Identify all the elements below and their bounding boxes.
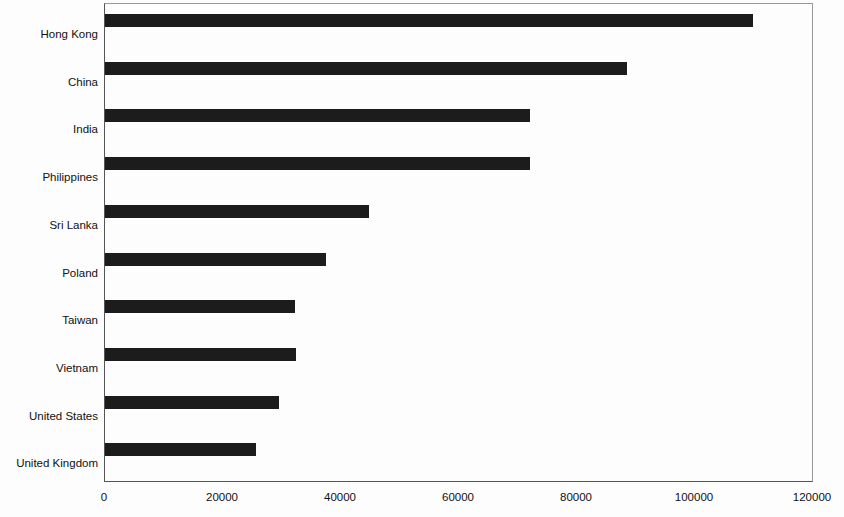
category-label: India	[0, 123, 98, 135]
x-tick-label: 60000	[442, 491, 474, 504]
x-tick-label: 0	[101, 491, 107, 504]
bar-row	[105, 293, 812, 341]
category-axis-labels: Hong KongChinaIndiaPhilippinesSri LankaP…	[0, 3, 98, 482]
bar	[105, 253, 326, 266]
category-label: Taiwan	[0, 314, 98, 326]
bar	[105, 109, 530, 122]
x-tick-label: 120000	[793, 491, 831, 504]
bar	[105, 205, 369, 218]
category-label: Philippines	[0, 171, 98, 183]
bar-row	[105, 102, 812, 150]
bar	[105, 157, 530, 170]
bar-row	[105, 246, 812, 294]
category-label: United States	[0, 410, 98, 422]
x-tick-label: 40000	[324, 491, 356, 504]
bar-row	[105, 150, 812, 198]
x-tick-label: 80000	[560, 491, 592, 504]
bar-row	[105, 55, 812, 103]
category-label: Poland	[0, 267, 98, 279]
category-label: Sri Lanka	[0, 219, 98, 231]
bar-row	[105, 341, 812, 389]
bar	[105, 14, 753, 27]
bar-chart: Hong KongChinaIndiaPhilippinesSri LankaP…	[0, 0, 844, 517]
bar	[105, 348, 296, 361]
category-label: Vietnam	[0, 362, 98, 374]
bar	[105, 396, 279, 409]
bar	[105, 300, 295, 313]
category-label: United Kingdom	[0, 457, 98, 469]
x-tick-label: 20000	[206, 491, 238, 504]
bar	[105, 62, 627, 75]
category-label: China	[0, 76, 98, 88]
x-tick-label: 100000	[675, 491, 713, 504]
bar	[105, 443, 256, 456]
plot-area	[104, 3, 813, 482]
bar-row	[105, 389, 812, 437]
bar-row	[105, 198, 812, 246]
value-axis: 020000400006000080000100000120000	[104, 482, 813, 490]
bar-row	[105, 436, 812, 484]
bar-row	[105, 7, 812, 55]
category-label: Hong Kong	[0, 28, 98, 40]
